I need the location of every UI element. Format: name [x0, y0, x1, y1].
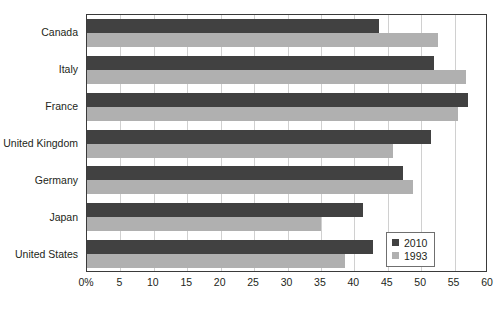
x-tick-label: 15 [180, 276, 192, 289]
x-axis: 0%51015202530354045505560 [86, 274, 487, 294]
x-tick-label: 55 [448, 276, 460, 289]
bar-group [87, 199, 486, 236]
x-tick-label: 0% [78, 276, 93, 289]
x-tick-label: 35 [314, 276, 326, 289]
chart-legend: 20101993 [386, 232, 435, 267]
x-tick-label: 5 [116, 276, 122, 289]
legend-item: 1993 [392, 249, 427, 262]
bar-1993 [87, 144, 393, 158]
bar-group [87, 89, 486, 126]
legend-label: 2010 [404, 237, 427, 249]
bar-2010 [87, 19, 379, 33]
category-label: France [45, 100, 78, 112]
bar-1993 [87, 70, 466, 84]
bar-chart: CanadaItalyFranceUnited KingdomGermanyJa… [0, 0, 502, 313]
bar-group [87, 15, 486, 52]
bar-group [87, 162, 486, 199]
bar-2010 [87, 130, 431, 144]
bar-1993 [87, 217, 321, 231]
x-tick-label: 60 [481, 276, 493, 289]
bar-1993 [87, 254, 345, 268]
category-axis: CanadaItalyFranceUnited KingdomGermanyJa… [0, 14, 82, 272]
category-label: Canada [41, 26, 78, 38]
x-tick-label: 10 [147, 276, 159, 289]
category-label: Japan [49, 211, 78, 223]
bar-1993 [87, 180, 413, 194]
bar-1993 [87, 107, 458, 121]
x-tick-label: 40 [347, 276, 359, 289]
bar-2010 [87, 203, 363, 217]
x-tick-label: 30 [281, 276, 293, 289]
bar-2010 [87, 93, 468, 107]
bar-group [87, 126, 486, 163]
bar-2010 [87, 166, 403, 180]
x-tick-label: 50 [414, 276, 426, 289]
legend-swatch-icon [392, 252, 399, 259]
category-label: Italy [59, 63, 78, 75]
bar-group [87, 52, 486, 89]
bar-2010 [87, 240, 373, 254]
category-label: United Kingdom [3, 137, 78, 149]
bar-2010 [87, 56, 434, 70]
category-label: Germany [35, 174, 78, 186]
x-tick-label: 25 [247, 276, 259, 289]
legend-label: 1993 [404, 250, 427, 262]
category-label: United States [15, 248, 78, 260]
bar-1993 [87, 33, 438, 47]
x-tick-label: 20 [214, 276, 226, 289]
legend-swatch-icon [392, 239, 399, 246]
x-tick-label: 45 [381, 276, 393, 289]
legend-item: 2010 [392, 236, 427, 249]
